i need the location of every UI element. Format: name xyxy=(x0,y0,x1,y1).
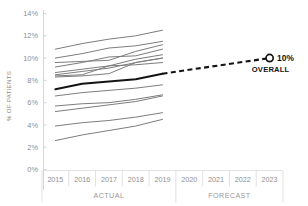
series-line xyxy=(55,41,162,58)
forecast-endpoint-marker xyxy=(266,54,273,61)
series-line xyxy=(55,30,162,49)
series-line xyxy=(55,113,162,126)
y-axis-tick-label: 0% xyxy=(27,165,38,174)
series-line xyxy=(55,96,162,112)
series-line xyxy=(55,95,162,106)
x-axis-tick-label: 2017 xyxy=(101,175,117,184)
period-band-label: ACTUAL xyxy=(94,191,125,200)
x-axis-tick-label: 2019 xyxy=(155,175,171,184)
chart-container: % OF PATIENTS 0%2%4%6%8%10%12%14% 10%OVE… xyxy=(0,0,308,206)
y-axis-tick-label: 4% xyxy=(27,121,38,130)
callout-sub-label: OVERALL xyxy=(252,65,290,74)
y-axis-tick-label: 12% xyxy=(23,31,38,40)
x-axis-tick-label: 2016 xyxy=(74,175,90,184)
x-axis-tick-label: 2020 xyxy=(181,175,197,184)
x-axis-tick-label: 2021 xyxy=(208,175,224,184)
y-axis-tick-label: 2% xyxy=(27,143,38,152)
series-line xyxy=(55,58,162,77)
y-axis-tick-label: 14% xyxy=(23,9,38,18)
y-axis-tick-label: 6% xyxy=(27,98,38,107)
patients-trend-line-chart: % OF PATIENTS 0%2%4%6%8%10%12%14% 10%OVE… xyxy=(0,0,308,206)
data-series-layer xyxy=(55,30,269,140)
y-axis-tick-labels: 0%2%4%6%8%10%12%14% xyxy=(23,9,38,174)
x-axis-tick-label: 2015 xyxy=(47,175,63,184)
callout-value-label: 10% xyxy=(277,53,294,63)
x-axis-layer: 201520162017201820192020202120222023ACTU… xyxy=(42,171,283,203)
x-axis-tick-label: 2022 xyxy=(235,175,251,184)
x-axis-tick-label: 2018 xyxy=(128,175,144,184)
y-axis-tick-label: 8% xyxy=(27,76,38,85)
period-band-label: FORECAST xyxy=(208,191,251,200)
y-axis-tick-label: 10% xyxy=(23,54,38,63)
callout-annotation-layer: 10%OVERALL xyxy=(252,53,295,73)
x-axis-tick-label: 2023 xyxy=(262,175,278,184)
series-line xyxy=(55,119,162,140)
y-axis-title: % OF PATIENTS xyxy=(5,71,12,121)
